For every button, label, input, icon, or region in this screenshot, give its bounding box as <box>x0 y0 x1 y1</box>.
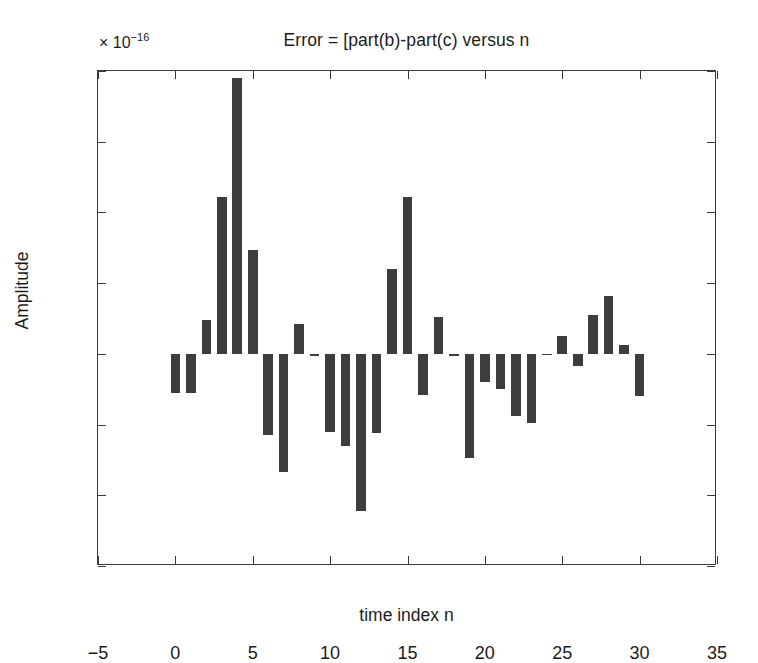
bar <box>248 250 258 354</box>
bar <box>403 197 413 354</box>
y-axis-tick <box>98 566 106 567</box>
x-axis-tick-label: 35 <box>687 643 747 663</box>
bar <box>557 336 567 354</box>
bar <box>511 354 521 416</box>
y-axis-tick <box>98 142 106 143</box>
bar <box>325 354 335 432</box>
bar <box>418 354 428 395</box>
x-axis-tick-top <box>175 71 176 79</box>
x-axis-tick-top <box>408 71 409 79</box>
x-axis-tick <box>408 556 409 564</box>
x-axis-tick-label: 30 <box>610 643 670 663</box>
bar <box>356 354 366 511</box>
y-axis-title: Amplitude <box>12 111 33 471</box>
x-axis-tick-top <box>562 71 563 79</box>
y-axis-tick <box>98 495 106 496</box>
x-axis-tick <box>98 556 99 564</box>
y-axis-tick-right <box>707 495 715 496</box>
x-axis-tick-label: 10 <box>300 643 360 663</box>
chart-title: Error = [part(b)-part(c) versus n <box>97 30 716 51</box>
bar <box>186 354 196 393</box>
y-axis-tick <box>98 354 106 355</box>
y-axis-tick-right <box>707 212 715 213</box>
x-axis-tick-label: −5 <box>68 643 128 663</box>
y-axis-tick-right <box>707 425 715 426</box>
bar <box>619 345 629 354</box>
bar <box>635 354 645 396</box>
bar <box>573 354 583 366</box>
exponent-power: −16 <box>131 31 150 43</box>
y-axis-tick <box>98 71 106 72</box>
x-axis-tick-top <box>98 71 99 79</box>
x-axis-tick-label: 0 <box>145 643 205 663</box>
bar <box>341 354 351 446</box>
bar <box>372 354 382 434</box>
x-axis-tick-top <box>485 71 486 79</box>
bar <box>496 354 506 389</box>
y-axis-tick-right <box>707 566 715 567</box>
x-axis-tick <box>330 556 331 564</box>
bar <box>171 354 181 393</box>
x-axis-tick <box>253 556 254 564</box>
bar <box>480 354 490 382</box>
x-axis-tick-top <box>640 71 641 79</box>
x-axis-title: time index n <box>97 605 716 626</box>
x-axis-tick <box>640 556 641 564</box>
bar <box>279 354 289 472</box>
y-axis-tick <box>98 283 106 284</box>
y-axis-tick <box>98 212 106 213</box>
x-axis-tick <box>485 556 486 564</box>
bar <box>387 269 397 354</box>
y-axis-tick-right <box>707 283 715 284</box>
bar <box>217 197 227 354</box>
bar <box>604 296 614 354</box>
bar <box>588 315 598 354</box>
x-axis-tick-top <box>330 71 331 79</box>
x-axis-tick-top <box>253 71 254 79</box>
x-axis-tick-label: 20 <box>455 643 515 663</box>
plot-frame: −6−4−202468−505101520253035 <box>97 70 716 565</box>
bar <box>527 354 537 423</box>
x-axis-tick-label: 15 <box>378 643 438 663</box>
x-axis-tick-label: 5 <box>223 643 283 663</box>
x-axis-tick <box>562 556 563 564</box>
bar <box>542 354 552 355</box>
y-axis-tick-right <box>707 142 715 143</box>
x-axis-tick-label: 25 <box>532 643 592 663</box>
y-axis-exponent-label: × 10−16 <box>99 32 149 52</box>
bar <box>310 354 320 356</box>
y-axis-tick <box>98 425 106 426</box>
bar <box>263 354 273 435</box>
x-axis-tick <box>175 556 176 564</box>
bar <box>202 320 212 354</box>
bar <box>434 317 444 354</box>
x-axis-tick-top <box>717 71 718 79</box>
plot-area <box>98 71 715 564</box>
exponent-mantissa: × 10 <box>99 34 131 51</box>
bar <box>294 324 304 354</box>
x-axis-tick <box>717 556 718 564</box>
bar <box>465 354 475 458</box>
y-axis-tick-right <box>707 354 715 355</box>
bar <box>232 78 242 354</box>
y-axis-tick-right <box>707 71 715 72</box>
bar <box>449 354 459 356</box>
